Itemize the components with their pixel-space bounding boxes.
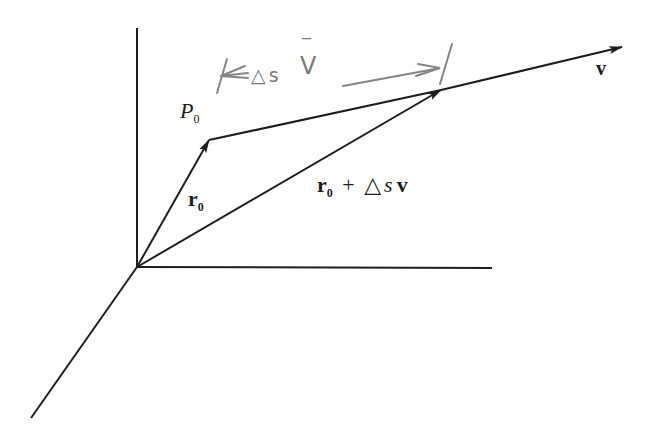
line-through-p0 (209, 90, 441, 140)
label-sum-r: r (317, 172, 327, 197)
label-p0-main: P (180, 98, 193, 123)
label-r0-main: r (188, 186, 198, 211)
label-sum-s: s (384, 172, 393, 197)
pencil-arrow-right-shaft (343, 69, 435, 86)
label-v: v (596, 58, 606, 78)
label-r0-plus-ds-v: r0 + △sv (317, 174, 408, 196)
vector-v (441, 47, 622, 90)
x-axis-diagonal (31, 267, 137, 418)
label-sum-plus: + (342, 172, 354, 197)
y-axis-horizontal (137, 267, 492, 268)
label-r0: r0 (188, 188, 204, 210)
vector-diagram (0, 0, 648, 446)
label-v-text: v (596, 57, 606, 79)
hand-v: V (300, 52, 316, 80)
label-p0-sub: 0 (193, 112, 199, 126)
hand-bar: ‾ (302, 34, 311, 55)
label-sum-sub: 0 (327, 186, 333, 200)
pencil-tick-right (440, 44, 452, 84)
hand-s: s (269, 64, 279, 86)
handwritten-delta-s-vbar: △s (251, 66, 279, 85)
handwritten-bar: ‾ (302, 36, 311, 54)
label-sum-delta: △ (364, 172, 381, 197)
hand-delta: △ (251, 64, 266, 86)
label-sum-v: v (397, 172, 408, 197)
handwritten-vbar: V (300, 54, 316, 78)
label-r0-sub: 0 (198, 200, 204, 214)
label-p0: P0 (180, 100, 199, 122)
